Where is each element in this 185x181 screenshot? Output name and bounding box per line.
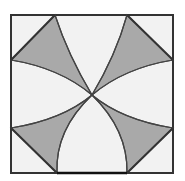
diagram-canvas	[0, 0, 185, 181]
